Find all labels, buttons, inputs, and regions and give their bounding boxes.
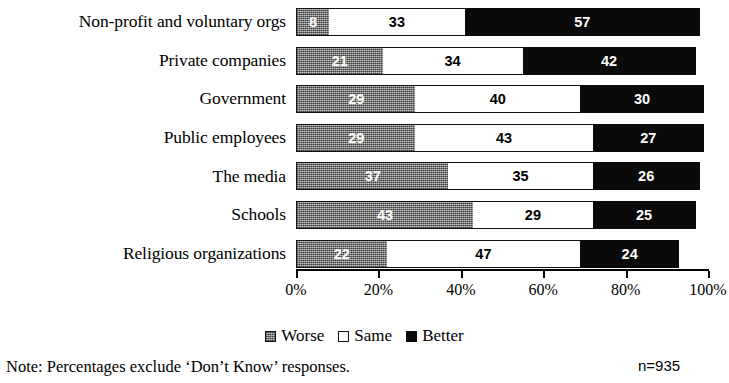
bar-segment-same: 34: [383, 47, 523, 75]
x-tick-label: 20%: [348, 281, 408, 299]
footnote: Note: Percentages exclude ‘Don’t Know’ r…: [6, 357, 350, 377]
legend-item-same[interactable]: Same: [338, 326, 392, 346]
category-label: Government: [0, 85, 286, 113]
legend-swatch-worse-icon: [265, 331, 276, 342]
category-label: Religious organizations: [0, 240, 286, 268]
legend-item-worse[interactable]: Worse: [265, 326, 324, 346]
legend-item-better[interactable]: Better: [406, 326, 464, 346]
stacked-bar: 294030: [296, 85, 708, 113]
x-tick-label: 40%: [431, 281, 491, 299]
x-axis-line: [296, 269, 709, 271]
chart-legend: WorseSameBetter: [0, 326, 729, 346]
bar-segment-worse: 21: [296, 47, 383, 75]
x-tick-label: 80%: [596, 281, 656, 299]
bar-row: Religious organizations224724: [0, 240, 729, 268]
x-tick: [708, 271, 710, 278]
bar-segment-worse: 29: [296, 85, 415, 113]
bar-segment-same: 40: [415, 85, 580, 113]
category-label: Non-profit and voluntary orgs: [0, 8, 286, 36]
plot-area: Non-profit and voluntary orgs83357Privat…: [0, 0, 729, 300]
bar-segment-better: 27: [593, 124, 704, 152]
bar-segment-same: 29: [473, 201, 592, 229]
category-label: The media: [0, 162, 286, 190]
x-tick: [461, 271, 463, 278]
bar-segment-worse: 37: [296, 162, 448, 190]
x-tick-label: 0%: [266, 281, 326, 299]
category-label: Private companies: [0, 47, 286, 75]
legend-label: Same: [354, 326, 392, 346]
x-tick: [543, 271, 545, 278]
stacked-bar-chart: Non-profit and voluntary orgs83357Privat…: [0, 0, 729, 383]
stacked-bar: 224724: [296, 240, 708, 268]
bar-row: Schools432925: [0, 201, 729, 229]
bar-segment-same: 33: [329, 8, 465, 36]
bar-segment-better: 57: [465, 8, 700, 36]
bar-row: The media373526: [0, 162, 729, 190]
legend-label: Worse: [281, 326, 324, 346]
x-tick: [626, 271, 628, 278]
bar-row: Non-profit and voluntary orgs83357: [0, 8, 729, 36]
x-tick: [296, 271, 298, 278]
legend-swatch-same-icon: [338, 331, 349, 342]
bar-segment-better: 30: [580, 85, 704, 113]
bar-segment-same: 43: [415, 124, 592, 152]
bar-row: Public employees294327: [0, 124, 729, 152]
stacked-bar: 213442: [296, 47, 708, 75]
bar-segment-better: 26: [593, 162, 700, 190]
legend-label: Better: [422, 326, 464, 346]
bar-segment-worse: 8: [296, 8, 329, 36]
bar-segment-same: 35: [448, 162, 592, 190]
category-label: Schools: [0, 201, 286, 229]
bar-row: Government294030: [0, 85, 729, 113]
bar-segment-worse: 29: [296, 124, 415, 152]
bar-segment-better: 42: [523, 47, 696, 75]
bar-segment-better: 25: [593, 201, 696, 229]
stacked-bar: 83357: [296, 8, 708, 36]
sample-size-label: n=935: [638, 357, 680, 374]
bar-segment-worse: 43: [296, 201, 473, 229]
category-label: Public employees: [0, 124, 286, 152]
stacked-bar: 432925: [296, 201, 708, 229]
bar-segment-worse: 22: [296, 240, 387, 268]
bar-row: Private companies213442: [0, 47, 729, 75]
x-tick: [378, 271, 380, 278]
x-tick-label: 100%: [678, 281, 729, 299]
bar-segment-better: 24: [580, 240, 679, 268]
stacked-bar: 373526: [296, 162, 708, 190]
bar-segment-same: 47: [387, 240, 581, 268]
x-tick-label: 60%: [513, 281, 573, 299]
legend-swatch-better-icon: [406, 331, 417, 342]
stacked-bar: 294327: [296, 124, 708, 152]
